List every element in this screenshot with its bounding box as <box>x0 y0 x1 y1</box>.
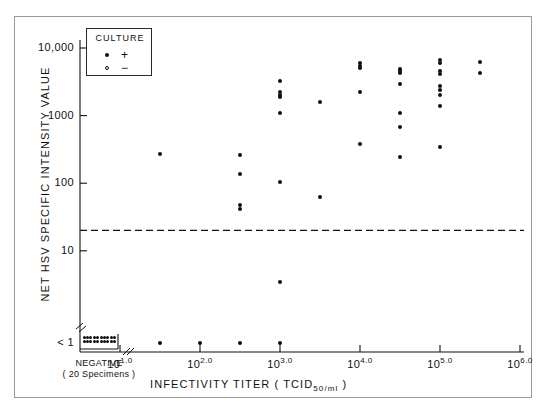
data-point <box>318 100 322 104</box>
legend-label-positive: + <box>117 49 128 61</box>
filled-circle-icon <box>97 53 117 57</box>
data-point <box>438 88 442 92</box>
data-point <box>438 61 442 65</box>
plot-canvas <box>0 0 548 415</box>
x-tick-exponent: 4.0 <box>360 356 372 365</box>
x-tick-label: 103.0 <box>257 356 303 370</box>
negative-specimen-point <box>89 336 92 339</box>
axes-group <box>76 40 524 355</box>
x-tick-label: 102.0 <box>177 356 223 370</box>
x-tick-exponent: 6.0 <box>520 356 532 365</box>
x-tick-label: 106.0 <box>497 356 543 370</box>
negative-specimen-point <box>96 340 99 343</box>
data-point <box>238 341 242 345</box>
x-tick-base: 10 <box>347 358 360 370</box>
negative-specimen-point <box>96 336 99 339</box>
x-tick-base: 10 <box>507 358 520 370</box>
data-point <box>398 125 402 129</box>
negative-group-sublabel: ( 20 Specimens ) <box>44 369 154 379</box>
legend-title: CULTURE <box>87 33 153 43</box>
data-point <box>318 195 322 199</box>
data-point <box>438 104 442 108</box>
legend-label-negative: − <box>117 62 128 74</box>
y-tick-label: 1000 <box>20 109 74 121</box>
data-point <box>158 152 162 156</box>
x-axis-title-main: INFECTIVITY TITER ( TCID <box>150 378 313 390</box>
y-tick-label: 10,000 <box>20 41 74 53</box>
x-tick-exponent: 3.0 <box>280 356 292 365</box>
data-point <box>478 60 482 64</box>
data-point <box>238 207 242 211</box>
y-tick-label: 10 <box>20 244 74 256</box>
open-circle-icon <box>97 66 117 70</box>
legend-box: CULTURE + − <box>86 28 152 76</box>
data-point <box>278 280 282 284</box>
x-axis-title-tail: ) <box>338 378 347 390</box>
data-point <box>278 180 282 184</box>
x-tick-base: 10 <box>427 358 440 370</box>
data-point <box>358 142 362 146</box>
x-tick-base: 10 <box>187 358 200 370</box>
data-point <box>278 341 282 345</box>
data-point <box>358 66 362 70</box>
negative-group-label: NEGATIVE <box>44 358 154 368</box>
x-axis-title: INFECTIVITY TITER ( TCID50/ml ) <box>150 378 347 393</box>
x-axis-title-subscript: 50/ml <box>313 384 338 393</box>
y-tick-label: < 1 <box>20 336 74 348</box>
data-point <box>398 111 402 115</box>
legend-item-culture-negative: − <box>97 61 145 74</box>
x-tick-base: 10 <box>267 358 280 370</box>
data-point <box>278 79 282 83</box>
negative-specimen-point <box>106 336 109 339</box>
y-tick-label: 100 <box>20 176 74 188</box>
data-point <box>478 71 482 75</box>
x-tick-label: 104.0 <box>337 356 383 370</box>
x-tick-exponent: 2.0 <box>200 356 212 365</box>
data-point <box>158 341 162 345</box>
x-tick-label: 105.0 <box>417 356 463 370</box>
legend-item-culture-positive: + <box>97 48 145 61</box>
negative-specimen-point <box>113 340 116 343</box>
negative-specimen-point <box>113 336 116 339</box>
x-tick-exponent: 5.0 <box>440 356 452 365</box>
data-point <box>198 341 202 345</box>
data-point <box>278 95 282 99</box>
figure-container: NET HSV SPECIFIC INTENSITY VALUE INFECTI… <box>0 0 548 415</box>
